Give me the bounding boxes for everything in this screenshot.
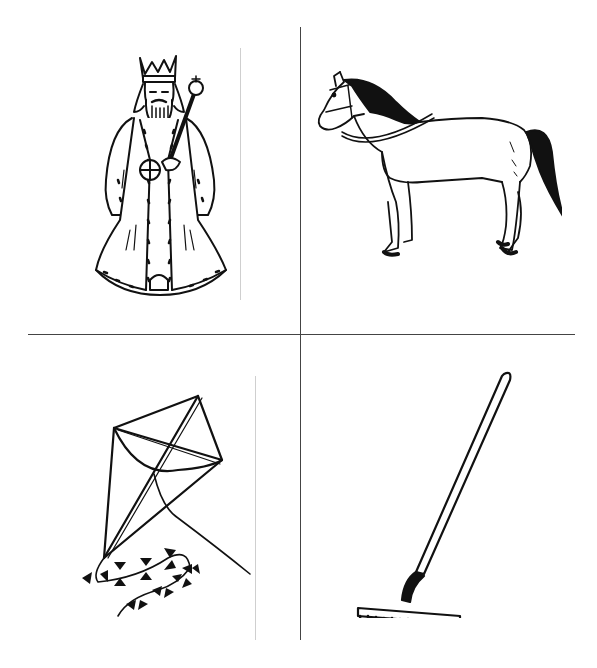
cell-rake xyxy=(352,368,522,618)
horizontal-divider xyxy=(28,334,575,335)
rake-icon xyxy=(352,368,522,618)
kite-icon xyxy=(78,378,258,618)
cell-kite xyxy=(78,378,258,618)
vertical-divider xyxy=(300,27,301,640)
king-icon xyxy=(90,50,240,300)
cell-king xyxy=(90,50,240,300)
faint-edge-line xyxy=(240,48,241,300)
cell-horse xyxy=(312,62,562,272)
horse-icon xyxy=(312,62,562,272)
